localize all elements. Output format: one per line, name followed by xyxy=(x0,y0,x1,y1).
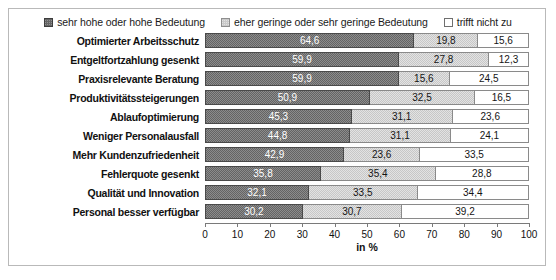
bar-row: Produktivitätssteigerungen50,932,516,5 xyxy=(9,88,547,107)
category-label: Weniger Personalausfall xyxy=(9,130,199,142)
bar-segment-series-2[interactable]: 27,8 xyxy=(399,52,489,67)
category-label: Qualität und Innovation xyxy=(9,187,199,199)
x-axis-tick-label: 70 xyxy=(426,229,437,240)
bar-value-label: 24,1 xyxy=(480,131,499,141)
bar-segment-series-3[interactable]: 28,8 xyxy=(436,166,529,181)
x-axis-tick xyxy=(529,223,530,227)
bar-segment-series-3[interactable]: 33,5 xyxy=(420,147,529,162)
bar-row: Weniger Personalausfall44,831,124,1 xyxy=(9,126,547,145)
bar-value-label: 59,9 xyxy=(292,55,311,65)
bar-value-label: 15,6 xyxy=(414,74,433,84)
bar-value-label: 35,4 xyxy=(368,169,387,179)
category-label: Produktivitätssteigerungen xyxy=(9,92,199,104)
bar-segment-series-2[interactable]: 33,5 xyxy=(309,185,418,200)
legend-item-series-1[interactable]: sehr hohe oder hohe Bedeutung xyxy=(44,16,205,28)
x-axis-tick-label: 10 xyxy=(232,229,243,240)
bar-segment-series-2[interactable]: 31,1 xyxy=(352,109,453,124)
bar-segment-series-3[interactable]: 16,5 xyxy=(475,90,528,105)
bar-track: 59,927,812,3 xyxy=(205,52,529,67)
bar-row: Ablaufoptimierung45,331,123,6 xyxy=(9,107,547,126)
bar-value-label: 28,8 xyxy=(472,169,491,179)
bar-segment-series-1[interactable]: 64,6 xyxy=(205,33,414,48)
legend-item-series-3[interactable]: trifft nicht zu xyxy=(444,16,512,28)
bar-value-label: 32,5 xyxy=(412,93,431,103)
bar-segment-series-1[interactable]: 59,9 xyxy=(205,52,399,67)
legend-swatch-icon-series-1 xyxy=(44,18,53,27)
bar-value-label: 24,5 xyxy=(479,74,498,84)
bar-segment-series-2[interactable]: 35,4 xyxy=(321,166,436,181)
bar-track: 32,133,534,4 xyxy=(205,185,529,200)
bar-track: 64,619,815,6 xyxy=(205,33,529,48)
bar-segment-series-1[interactable]: 42,9 xyxy=(205,147,344,162)
x-axis: 0102030405060708090100 xyxy=(205,223,529,224)
bar-segment-series-2[interactable]: 23,6 xyxy=(344,147,420,162)
bar-segment-series-3[interactable]: 39,2 xyxy=(402,204,529,219)
bar-segment-series-1[interactable]: 59,9 xyxy=(205,71,399,86)
bar-value-label: 32,1 xyxy=(247,188,266,198)
x-axis-tick-label: 80 xyxy=(459,229,470,240)
category-label: Praxisrelevante Beratung xyxy=(9,73,199,85)
bar-track: 30,230,739,2 xyxy=(205,204,529,219)
category-label: Fehlerquote gesenkt xyxy=(9,168,199,180)
legend-label-series-1: sehr hohe oder hohe Bedeutung xyxy=(57,16,205,28)
bar-track: 59,915,624,5 xyxy=(205,71,529,86)
category-label: Personal besser verfügbar xyxy=(9,206,199,218)
bar-value-label: 45,3 xyxy=(269,112,288,122)
bar-segment-series-3[interactable]: 24,1 xyxy=(451,128,529,143)
bar-track: 50,932,516,5 xyxy=(205,90,529,105)
bar-value-label: 33,5 xyxy=(464,150,483,160)
legend-label-series-2: eher geringe oder sehr geringe Bedeutung xyxy=(234,16,428,28)
legend-swatch-icon-series-2 xyxy=(221,18,230,27)
category-label: Ablaufoptimierung xyxy=(9,111,199,123)
x-axis-tick xyxy=(497,223,498,227)
bar-segment-series-1[interactable]: 35,8 xyxy=(205,166,321,181)
bar-value-label: 15,6 xyxy=(493,36,512,46)
bar-segment-series-3[interactable]: 12,3 xyxy=(489,52,529,67)
x-axis-tick-label: 30 xyxy=(297,229,308,240)
x-axis-tick-label: 100 xyxy=(521,229,538,240)
bar-segment-series-2[interactable]: 31,1 xyxy=(350,128,451,143)
bar-segment-series-1[interactable]: 50,9 xyxy=(205,90,370,105)
bar-segment-series-1[interactable]: 44,8 xyxy=(205,128,350,143)
bar-segment-series-2[interactable]: 15,6 xyxy=(399,71,450,86)
bar-value-label: 23,6 xyxy=(481,112,500,122)
bar-value-label: 16,5 xyxy=(492,93,511,103)
bar-value-label: 64,6 xyxy=(300,36,319,46)
bar-value-label: 31,1 xyxy=(390,131,409,141)
bar-value-label: 44,8 xyxy=(268,131,287,141)
x-axis-tick-label: 0 xyxy=(202,229,208,240)
chart-frame: sehr hohe oder hohe Bedeutung eher gerin… xyxy=(8,8,546,266)
bar-row: Praxisrelevante Beratung59,915,624,5 xyxy=(9,69,547,88)
bar-segment-series-2[interactable]: 32,5 xyxy=(370,90,475,105)
bar-segment-series-2[interactable]: 30,7 xyxy=(303,204,402,219)
x-axis-tick-label: 90 xyxy=(491,229,502,240)
category-label: Mehr Kundenzufriedenheit xyxy=(9,149,199,161)
bar-segment-series-3[interactable]: 15,6 xyxy=(478,33,529,48)
x-axis-tick-label: 40 xyxy=(329,229,340,240)
bar-value-label: 23,6 xyxy=(372,150,391,160)
bar-track: 42,923,633,5 xyxy=(205,147,529,162)
bar-value-label: 42,9 xyxy=(265,150,284,160)
bar-row: Optimierter Arbeitsschutz64,619,815,6 xyxy=(9,31,547,50)
bar-value-label: 59,9 xyxy=(292,74,311,84)
bar-row: Qualität und Innovation32,133,534,4 xyxy=(9,183,547,202)
x-axis-tick xyxy=(464,223,465,227)
legend-item-series-2[interactable]: eher geringe oder sehr geringe Bedeutung xyxy=(221,16,428,28)
x-axis-tick xyxy=(399,223,400,227)
bar-segment-series-3[interactable]: 23,6 xyxy=(453,109,529,124)
bar-value-label: 33,5 xyxy=(353,188,372,198)
bar-value-label: 27,8 xyxy=(434,55,453,65)
bar-segment-series-1[interactable]: 30,2 xyxy=(205,204,303,219)
x-axis-tick-label: 20 xyxy=(264,229,275,240)
plot-area: Optimierter Arbeitsschutz64,619,815,6Ent… xyxy=(9,31,547,267)
bar-segment-series-3[interactable]: 24,5 xyxy=(450,71,529,86)
bar-track: 44,831,124,1 xyxy=(205,128,529,143)
x-axis-tick xyxy=(432,223,433,227)
x-axis-tick xyxy=(367,223,368,227)
bar-segment-series-2[interactable]: 19,8 xyxy=(414,33,478,48)
x-axis-tick-label: 60 xyxy=(394,229,405,240)
bar-segment-series-3[interactable]: 34,4 xyxy=(418,185,529,200)
chart-legend: sehr hohe oder hohe Bedeutung eher gerin… xyxy=(9,14,547,30)
bar-segment-series-1[interactable]: 32,1 xyxy=(205,185,309,200)
bar-segment-series-1[interactable]: 45,3 xyxy=(205,109,352,124)
